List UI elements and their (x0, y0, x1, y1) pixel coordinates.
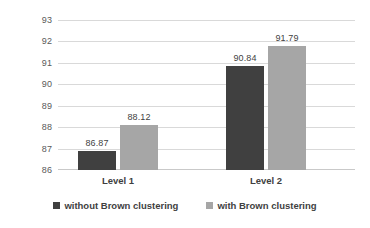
category-label-level-2: Level 2 (226, 175, 306, 186)
gridline (58, 41, 355, 42)
category-label-level-1: Level 1 (78, 175, 158, 186)
data-label-level-1-with-brown-clustering: 88.12 (120, 112, 158, 122)
gridline (58, 63, 355, 64)
legend-item-without-brown-clustering[interactable]: without Brown clustering (53, 200, 178, 211)
gridline (58, 20, 355, 21)
data-label-level-2-without-brown-clustering: 90.84 (226, 53, 264, 63)
y-axis-tick-label: 86 (8, 165, 52, 175)
legend-label: without Brown clustering (64, 200, 178, 211)
plot-area: 86.87 88.12 90.84 91.79 (58, 20, 355, 170)
y-axis-tick-label: 92 (8, 36, 52, 46)
bar-level-1-without-brown-clustering[interactable] (78, 151, 116, 170)
chart-legend: without Brown clustering with Brown clus… (0, 200, 370, 211)
gridline (58, 106, 355, 107)
gridline (58, 84, 355, 85)
data-label-level-1-without-brown-clustering: 86.87 (78, 138, 116, 148)
y-axis-tick-label: 90 (8, 79, 52, 89)
y-axis-tick-label: 93 (8, 15, 52, 25)
y-axis-tick-label: 88 (8, 122, 52, 132)
bar-chart: 93 92 91 90 89 88 87 86 86.87 88.12 90.8… (0, 0, 370, 228)
bar-level-1-with-brown-clustering[interactable] (120, 125, 158, 170)
data-label-level-2-with-brown-clustering: 91.79 (268, 33, 306, 43)
legend-label: with Brown clustering (217, 200, 316, 211)
y-axis-tick-label: 91 (8, 58, 52, 68)
bar-level-2-without-brown-clustering[interactable] (226, 66, 264, 170)
bar-level-2-with-brown-clustering[interactable] (268, 46, 306, 170)
legend-swatch-icon (206, 202, 213, 209)
y-axis-tick-label: 87 (8, 144, 52, 154)
y-axis-tick-labels: 93 92 91 90 89 88 87 86 (0, 20, 52, 170)
gridline (58, 127, 355, 128)
gridline (58, 149, 355, 150)
legend-item-with-brown-clustering[interactable]: with Brown clustering (206, 200, 316, 211)
legend-swatch-icon (53, 202, 60, 209)
y-axis-tick-label: 89 (8, 101, 52, 111)
